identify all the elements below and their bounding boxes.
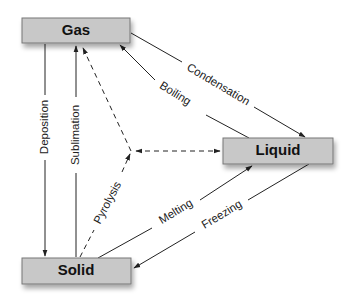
boiling-label: Boiling	[158, 79, 194, 107]
pyrolysis-label: Pyrolysis	[91, 179, 123, 225]
deposition-label: Deposition	[38, 100, 50, 154]
solid-node: Solid	[22, 258, 131, 284]
liquid-node: Liquid	[223, 138, 333, 164]
freezing-label: Freezing	[199, 198, 244, 231]
phase-diagram: Condensation Boiling Deposition Sublimat…	[0, 0, 353, 307]
liquid-label: Liquid	[256, 141, 301, 158]
gas-label: Gas	[62, 21, 90, 38]
sublimation-arrow: Sublimation	[69, 46, 81, 257]
deposition-arrow: Deposition	[38, 44, 50, 256]
sublimation-label: Sublimation	[69, 105, 81, 165]
solid-label: Solid	[58, 261, 95, 278]
melting-label: Melting	[157, 196, 195, 225]
gas-node: Gas	[22, 18, 130, 43]
condensation-label: Condensation	[185, 61, 252, 107]
